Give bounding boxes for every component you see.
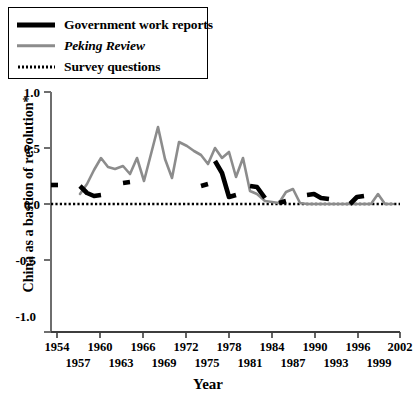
- legend-item-peking-review: Peking Review: [17, 35, 207, 56]
- plot-area: [0, 88, 416, 338]
- legend-item-gov-reports: Government work reports: [17, 14, 207, 35]
- x-tick-label-1975: 1975: [190, 356, 224, 371]
- x-tick-label-1954: 1954: [40, 340, 74, 355]
- peking-review-line: [80, 127, 393, 204]
- government-work-reports-line: [51, 161, 364, 204]
- figure-container: Government work reports Peking Review Su…: [0, 0, 416, 403]
- legend-label-peking-review: Peking Review: [64, 38, 145, 54]
- x-tick-label-1960: 1960: [83, 340, 117, 355]
- chart-legend: Government work reports Peking Review Su…: [8, 7, 208, 79]
- x-tick-label-1969: 1969: [147, 356, 181, 371]
- x-tick-label-1981: 1981: [233, 356, 267, 371]
- x-tick-label-1990: 1990: [298, 340, 332, 355]
- y-tick-marks: [44, 92, 51, 332]
- legend-label-gov-reports: Government work reports: [64, 17, 213, 33]
- x-tick-label-1978: 1978: [212, 340, 246, 355]
- x-tick-label-1966: 1966: [126, 340, 160, 355]
- legend-swatch-solid-gray-icon: [17, 40, 55, 52]
- legend-item-survey-questions: Survey questions: [17, 56, 207, 77]
- legend-label-survey-questions: Survey questions: [64, 59, 160, 75]
- x-tick-label-1972: 1972: [169, 340, 203, 355]
- x-tick-label-1996: 1996: [341, 340, 375, 355]
- x-tick-label-1963: 1963: [104, 356, 138, 371]
- x-tick-label-1999: 1999: [362, 356, 396, 371]
- x-tick-label-2002: 2002: [383, 340, 416, 355]
- chart-svg: [0, 88, 416, 338]
- x-axis-title: Year: [0, 376, 416, 393]
- x-tick-label-1987: 1987: [276, 356, 310, 371]
- x-tick-label-1957: 1957: [61, 356, 95, 371]
- x-tick-label-1993: 1993: [319, 356, 353, 371]
- x-tick-label-1984: 1984: [255, 340, 289, 355]
- legend-swatch-solid-black-icon: [17, 19, 55, 31]
